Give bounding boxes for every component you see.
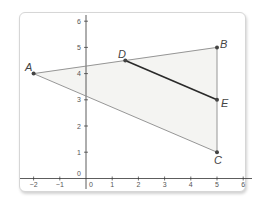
y-tick-label: 4 [77,70,81,77]
x-tick-label: −1 [56,181,64,188]
triangle-abc-fill [34,47,217,152]
point-e-label: E [221,97,229,109]
coordinate-plane: −2 −1 0 1 2 3 4 5 6 0 1 2 3 4 5 6 A B C [0,0,271,203]
x-tick-label: 5 [215,181,219,188]
point-d-label: D [118,48,126,60]
y-tick-label: 6 [77,18,81,25]
y-tick-label: 0 [77,170,81,177]
y-axis-tick-labels: 0 1 2 3 4 5 6 [77,18,81,177]
x-tick-label: 4 [189,181,193,188]
y-tick-label: 5 [77,44,81,51]
point-b-label: B [220,38,227,50]
point-c-label: C [214,154,222,166]
x-tick-label: 0 [89,181,93,188]
x-tick-label: 3 [163,181,167,188]
point-a-label: A [24,61,32,73]
x-tick-label: 1 [110,181,114,188]
y-tick-label: 1 [77,149,81,156]
x-axis-tick-labels: −2 −1 0 1 2 3 4 5 6 [30,181,246,188]
point-b [215,45,219,49]
x-tick-label: 2 [136,181,140,188]
y-tick-label: 3 [77,96,81,103]
x-tick-label: 6 [241,181,245,188]
point-e [215,98,219,102]
x-tick-label: −2 [30,181,38,188]
y-tick-label: 2 [77,123,81,130]
